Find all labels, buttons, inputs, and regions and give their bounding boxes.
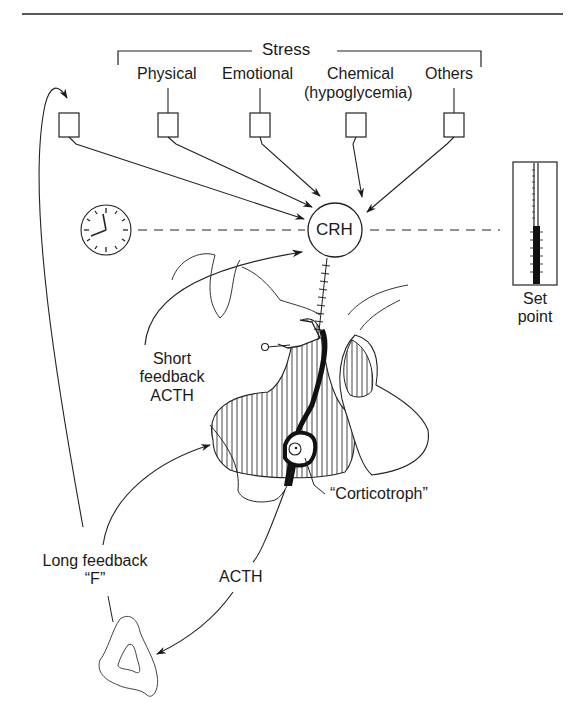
adrenal-gland <box>99 616 158 696</box>
set-point-line2: point <box>515 308 555 326</box>
diagram-canvas <box>0 0 585 727</box>
set-point-label: Set point <box>515 290 555 327</box>
corticotroph-label: “Corticotroph” <box>330 485 428 503</box>
stress-emotional-label: Emotional <box>222 65 293 83</box>
stress-others-label: Others <box>425 65 473 83</box>
short-feedback-line2: feedback <box>132 368 212 386</box>
set-point-gauge <box>513 162 557 285</box>
set-point-line1: Set <box>515 290 555 308</box>
feedback-input-box <box>59 113 79 137</box>
crh-label: CRH <box>316 220 353 240</box>
clock-icon <box>81 205 131 255</box>
emotional-box <box>250 113 270 137</box>
physical-box <box>158 113 178 137</box>
hypothalamus-outline <box>172 254 408 330</box>
stress-chemical-sublabel: (hypoglycemia) <box>304 84 412 102</box>
acth-label: ACTH <box>219 568 263 586</box>
long-feedback-loop <box>39 88 83 527</box>
stimulus-arrows <box>69 137 454 219</box>
stress-physical-label: Physical <box>137 65 197 83</box>
long-feedback-arrow <box>103 445 210 545</box>
short-feedback-label: Short feedback ACTH <box>132 350 212 405</box>
short-feedback-line3: ACTH <box>132 387 212 405</box>
long-feedback-label: Long feedback “F” <box>30 552 160 589</box>
chemical-box <box>346 113 366 137</box>
stimulus-boxes <box>59 113 464 137</box>
others-box <box>444 113 464 137</box>
acth-arrow <box>253 490 285 562</box>
stress-chemical-label: Chemical <box>327 65 394 83</box>
long-feedback-leader <box>108 596 113 622</box>
long-feedback-line1: Long feedback <box>30 552 160 570</box>
stress-header: Stress <box>262 40 310 60</box>
long-feedback-line2: “F” <box>30 570 160 588</box>
short-feedback-line1: Short <box>132 350 212 368</box>
acth-arrow-lower <box>157 592 233 654</box>
